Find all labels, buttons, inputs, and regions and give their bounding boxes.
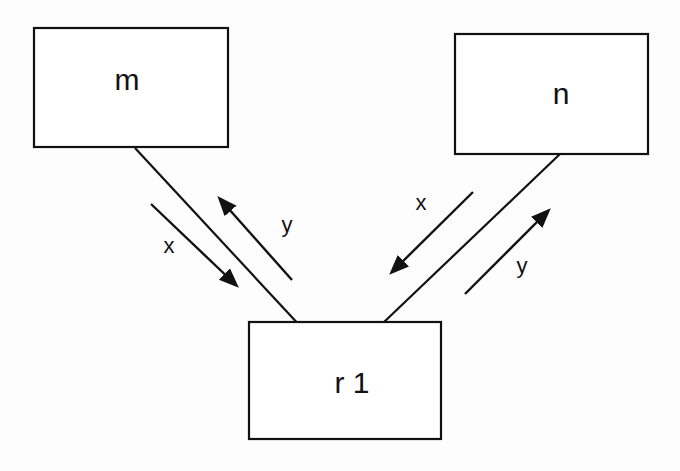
node-r1-label: r 1 <box>334 366 369 399</box>
flow-label-y-right: y <box>517 253 528 278</box>
flow-label-x-left: x <box>164 233 175 258</box>
flow-label-x-right: x <box>416 190 427 215</box>
flow-arrow-x-n-to-r1 <box>392 192 473 272</box>
flow-arrow-y-r1-to-n <box>465 211 548 294</box>
flow-label-y-left: y <box>282 212 293 237</box>
node-r1: r 1 <box>249 322 441 439</box>
node-m-label: m <box>115 63 140 96</box>
node-n: n <box>455 34 648 154</box>
node-n-label: n <box>553 77 570 110</box>
node-m: m <box>34 28 228 147</box>
node-n-box <box>455 34 648 154</box>
diagram-canvas: m n r 1 x y x y <box>0 0 680 471</box>
edge-m-r1 <box>135 148 302 328</box>
edge-n-r1 <box>383 154 560 323</box>
